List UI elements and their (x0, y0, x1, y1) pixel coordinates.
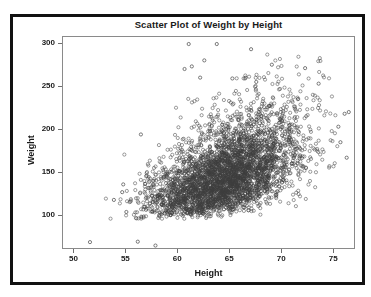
chart-title: Scatter Plot of Weight by Height (62, 18, 355, 32)
scatter-points-canvas (63, 37, 354, 248)
y-axis-label: Weight (26, 135, 36, 165)
plot-area (62, 36, 355, 249)
figure-container: Scatter Plot of Weight by Height 1001502… (0, 0, 371, 297)
x-axis-label: Height (62, 268, 355, 278)
